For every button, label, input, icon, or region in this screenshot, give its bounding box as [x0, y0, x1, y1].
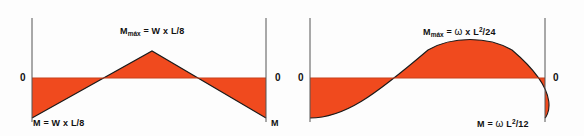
panel-uniform-load-diagram: 0 0 Mmáx = ω x L2/24 M = ω L2/12 [292, 0, 584, 136]
distributed-load-symbol: ω [455, 26, 463, 37]
max-moment-formula: Mmáx = ω x L2/24 [423, 27, 496, 38]
zero-label-left: 0 [298, 73, 304, 83]
distributed-load-symbol: ω [496, 118, 504, 129]
end-moment-label-right: M [271, 119, 279, 128]
zero-label-left: 0 [20, 73, 26, 83]
end-moment-formula: M = ω L2/12 [477, 119, 529, 129]
max-moment-formula: Mmáx = W x L/8 [120, 27, 185, 37]
end-moment-expression: W x L/8 [52, 118, 85, 128]
end-moment-symbol: M [477, 119, 485, 129]
panel-point-load-diagram: 0 0 Mmáx = W x L/8 M = W x L/8 M [0, 0, 292, 136]
max-moment-equals: = [143, 26, 148, 36]
max-moment-expression: W x L/8 [152, 26, 185, 36]
end-moment-formula-left: M = W x L/8 [33, 119, 84, 128]
uniform-load-moment-chart [292, 0, 584, 136]
max-moment-denominator: /24 [483, 27, 496, 37]
end-moment-equals: = [487, 119, 492, 129]
max-moment-symbol: M [423, 27, 431, 37]
max-moment-equals: = [446, 27, 451, 37]
max-moment-symbol: M [120, 26, 128, 36]
zero-label-right: 0 [275, 73, 281, 83]
max-moment-subscript: máx [128, 30, 141, 37]
max-moment-times: x [465, 27, 470, 37]
end-moment-symbol: M [33, 118, 41, 128]
end-moment-equals: = [43, 118, 48, 128]
zero-label-right: 0 [553, 73, 559, 83]
max-moment-subscript: máx [431, 31, 444, 38]
point-load-moment-chart [0, 0, 292, 136]
bending-moment-figure: 0 0 Mmáx = W x L/8 M = W x L/8 M 0 0 [0, 0, 584, 136]
end-moment-denominator: /12 [516, 119, 529, 129]
moment-area-fill [32, 51, 266, 118]
